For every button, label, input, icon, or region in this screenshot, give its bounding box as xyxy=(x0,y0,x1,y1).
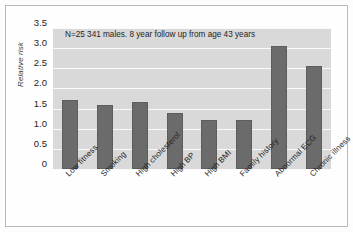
y-axis-title: Relative risk xyxy=(16,20,25,110)
y-axis-tick-label: 1.0 xyxy=(6,117,47,128)
y-axis-tick-label: 3.5 xyxy=(6,17,47,28)
y-axis-tick-label: 0 xyxy=(6,158,47,169)
figure-frame: Relative risk 00.51.01.52.02.53.03.5 N=2… xyxy=(5,5,348,227)
chart-annotation: N=25 341 males. 8 year follow up from ag… xyxy=(65,30,255,39)
gridline xyxy=(53,109,331,110)
gridline xyxy=(53,48,331,49)
y-axis-tick-label: 3.0 xyxy=(6,37,47,48)
gridline xyxy=(53,129,331,130)
x-axis-tick-labels: Low fitnessSmokingHigh cholesterolHigh B… xyxy=(53,169,331,232)
figure: Relative risk 00.51.01.52.02.53.03.5 N=2… xyxy=(0,0,353,232)
y-axis-tick-label: 0.5 xyxy=(6,137,47,148)
y-axis-tick-label: 2.5 xyxy=(6,57,47,68)
gridline xyxy=(53,88,331,89)
gridline xyxy=(53,68,331,69)
y-axis-tick-label: 1.5 xyxy=(6,97,47,108)
bar xyxy=(306,66,322,169)
bar xyxy=(271,46,287,169)
y-axis-tick-label: 2.0 xyxy=(6,77,47,88)
gridline xyxy=(53,28,331,29)
